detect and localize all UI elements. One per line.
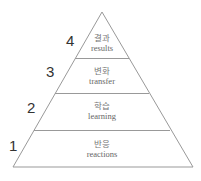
level-2-english: learning [62, 112, 142, 122]
level-1-label: 반응 reactions [62, 140, 142, 160]
level-1-english: reactions [62, 150, 142, 160]
level-3-label: 변화 transfer [62, 67, 142, 87]
level-3-number: 3 [46, 64, 54, 79]
level-3-english: transfer [62, 77, 142, 87]
level-1-number: 1 [9, 138, 17, 153]
level-2-number: 2 [27, 100, 35, 115]
level-4-english: results [62, 44, 142, 54]
level-4-label: 결과 results [62, 34, 142, 54]
level-2-label: 학습 learning [62, 102, 142, 122]
